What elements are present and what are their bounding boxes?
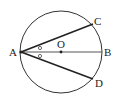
point-o bbox=[60, 51, 63, 54]
chord-ad bbox=[21, 52, 93, 79]
label-d: D bbox=[95, 77, 103, 89]
label-c: C bbox=[94, 15, 101, 27]
circle-diagram: A B C D O bbox=[0, 0, 120, 99]
label-b: B bbox=[104, 46, 111, 58]
point-a bbox=[19, 50, 22, 53]
label-a: A bbox=[9, 46, 17, 58]
label-o: O bbox=[57, 38, 65, 50]
angle-mark-upper bbox=[38, 46, 41, 49]
angle-mark-lower bbox=[38, 54, 41, 57]
